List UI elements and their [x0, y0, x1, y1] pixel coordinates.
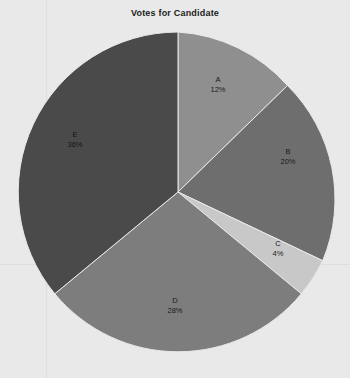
pie-label-e-name: E: [67, 130, 82, 140]
pie-label-a-value: 12%: [210, 85, 225, 95]
pie-label-b-value: 20%: [280, 157, 295, 167]
pie-label-b-name: B: [280, 147, 295, 157]
pie-label-c-name: C: [273, 239, 284, 249]
pie-label-a: A 12%: [210, 75, 225, 95]
pie-label-c: C 4%: [273, 239, 284, 259]
pie-label-d-name: D: [167, 296, 182, 306]
pie-label-c-value: 4%: [273, 249, 284, 259]
pie-label-a-name: A: [210, 75, 225, 85]
pie-label-e: E 36%: [67, 130, 82, 150]
chart-figure: Votes for Candidate A 12% B 20% C 4% D 2…: [0, 0, 350, 378]
pie-label-b: B 20%: [280, 147, 295, 167]
pie-label-e-value: 36%: [67, 140, 82, 150]
pie-label-d: D 28%: [167, 296, 182, 316]
pie-label-d-value: 28%: [167, 306, 182, 316]
pie-chart: [0, 0, 350, 378]
